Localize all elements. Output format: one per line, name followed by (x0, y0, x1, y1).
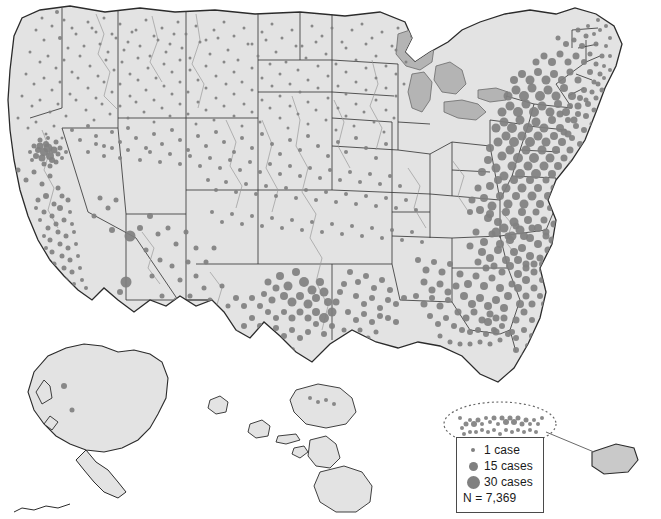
legend-row-15-cases: 15 cases (462, 458, 537, 474)
map-legend: 1 case 15 cases 30 cases N = 7,369 (456, 437, 544, 513)
legend-row-1-case: 1 case (462, 442, 537, 458)
us-case-density-map: 1 case 15 cases 30 cases N = 7,369 (0, 0, 661, 519)
legend-label-1-case: 1 case (484, 443, 520, 457)
legend-dot-15-cases (462, 462, 484, 471)
legend-total-n: N = 7,369 (462, 490, 537, 506)
legend-label-15-cases: 15 cases (484, 459, 533, 473)
legend-label-30-cases: 30 cases (484, 475, 533, 489)
legend-dot-30-cases (462, 476, 484, 489)
legend-row-30-cases: 30 cases (462, 474, 537, 490)
legend-dot-1-case (462, 448, 484, 452)
map-canvas (0, 0, 661, 519)
lake-ontario (478, 88, 508, 102)
